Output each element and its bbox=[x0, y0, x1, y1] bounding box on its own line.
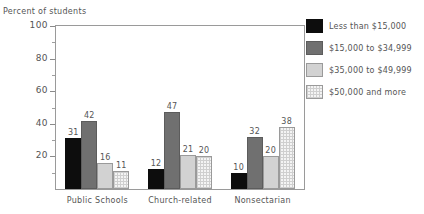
y-tick-label-60: 60 bbox=[0, 85, 48, 95]
bar-group: 31421611 bbox=[65, 26, 129, 189]
bar: 10 bbox=[231, 173, 247, 189]
legend-swatch-icon bbox=[306, 63, 323, 77]
bar: 20 bbox=[196, 156, 212, 189]
bar: 20 bbox=[263, 156, 279, 189]
y-axis-title: Percent of students bbox=[3, 7, 86, 16]
y-tick-label-100: 100 bbox=[0, 20, 48, 30]
bar: 42 bbox=[81, 121, 97, 189]
bar-value-label: 31 bbox=[68, 128, 79, 137]
legend: Less than $15,000$15,000 to $34,999$35,0… bbox=[306, 16, 424, 104]
x-category-label: Church-related bbox=[148, 196, 212, 205]
x-category-label: Nonsectarian bbox=[234, 196, 291, 205]
bar-value-label: 38 bbox=[281, 117, 292, 126]
bar: 32 bbox=[247, 137, 263, 189]
y-tick-label-20: 20 bbox=[0, 150, 48, 160]
legend-item: Less than $15,000 bbox=[306, 16, 424, 36]
y-tick-label-40: 40 bbox=[0, 118, 48, 128]
bar-value-label: 47 bbox=[167, 102, 178, 111]
legend-item: $15,000 to $34,999 bbox=[306, 38, 424, 58]
bar: 16 bbox=[97, 163, 113, 189]
bar-value-label: 12 bbox=[151, 159, 162, 168]
legend-label: $15,000 to $34,999 bbox=[329, 44, 412, 53]
y-tick-label-80: 80 bbox=[0, 53, 48, 63]
bar-group: 12472120 bbox=[148, 26, 212, 189]
bar: 21 bbox=[180, 155, 196, 189]
legend-swatch-icon bbox=[306, 85, 323, 99]
legend-label: $50,000 and more bbox=[329, 88, 406, 97]
bar-value-label: 21 bbox=[183, 145, 194, 154]
legend-item: $35,000 to $49,999 bbox=[306, 60, 424, 80]
bar-value-label: 16 bbox=[100, 153, 111, 162]
bar: 12 bbox=[148, 169, 164, 189]
bar: 38 bbox=[279, 127, 295, 189]
legend-swatch-icon bbox=[306, 41, 323, 55]
legend-item: $50,000 and more bbox=[306, 82, 424, 102]
legend-label: $35,000 to $49,999 bbox=[329, 66, 412, 75]
bar-value-label: 42 bbox=[84, 111, 95, 120]
bar-value-label: 32 bbox=[249, 127, 260, 136]
bar: 31 bbox=[65, 138, 81, 189]
bar-group: 10322038 bbox=[231, 26, 295, 189]
bar-value-label: 11 bbox=[116, 161, 127, 170]
x-category-label: Public Schools bbox=[67, 196, 128, 205]
bar-groups: 314216111247212010322038 bbox=[56, 26, 304, 189]
legend-label: Less than $15,000 bbox=[329, 22, 406, 31]
bar: 47 bbox=[164, 112, 180, 189]
bar-value-label: 20 bbox=[265, 146, 276, 155]
bar: 11 bbox=[113, 171, 129, 189]
legend-swatch-icon bbox=[306, 19, 323, 33]
bar-value-label: 10 bbox=[233, 163, 244, 172]
bar-value-label: 20 bbox=[199, 146, 210, 155]
